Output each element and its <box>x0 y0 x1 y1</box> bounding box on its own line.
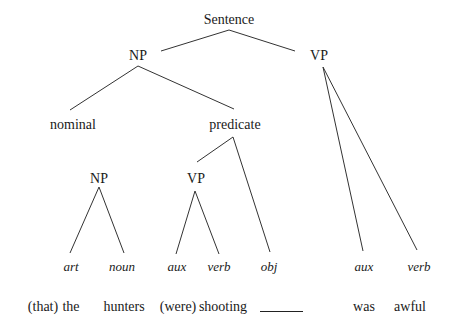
edge-predicate-obj <box>233 137 270 252</box>
word: (were) <box>160 299 197 315</box>
node-predicate: predicate <box>209 117 260 133</box>
edge-predicate-vp2 <box>197 137 233 162</box>
node-art: art <box>63 259 78 275</box>
node-nominal: nominal <box>50 117 96 133</box>
node-noun: noun <box>109 259 135 275</box>
node-vp1: VP <box>310 48 328 64</box>
node-verb2: verb <box>407 259 430 275</box>
edge-np2-art <box>70 187 99 253</box>
word: (that) <box>28 299 58 315</box>
word: was <box>353 299 375 315</box>
node-aux2: aux <box>355 259 374 275</box>
object-gap-blank <box>260 311 303 312</box>
node-s: Sentence <box>204 12 255 28</box>
node-aux1: aux <box>168 259 187 275</box>
tree-edges <box>0 0 452 335</box>
node-np2: NP <box>90 171 108 187</box>
edge-np1-nominal <box>70 66 138 110</box>
word: awful <box>394 299 426 315</box>
edge-vp2-verb1 <box>195 191 219 254</box>
edge-np2-noun <box>99 187 124 253</box>
edge-s-vp1 <box>229 30 295 51</box>
node-vp2: VP <box>187 171 205 187</box>
edge-vp1-verb2 <box>323 67 417 250</box>
edge-np1-predicate <box>138 66 234 109</box>
edge-vp2-aux1 <box>176 191 195 254</box>
edge-s-np1 <box>161 30 229 51</box>
word: the <box>62 299 79 315</box>
node-np1: NP <box>129 48 147 64</box>
node-obj: obj <box>261 259 278 275</box>
edge-vp1-aux2 <box>323 67 363 251</box>
word: shooting <box>199 299 247 315</box>
node-verb1: verb <box>207 259 230 275</box>
word: hunters <box>103 299 144 315</box>
